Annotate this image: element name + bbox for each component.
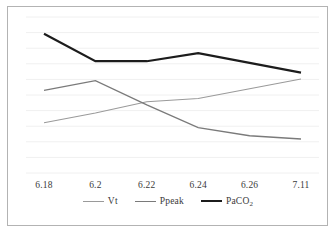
legend-line-swatch (83, 201, 104, 202)
legend-label: Ppeak (160, 196, 184, 206)
series-line-ppeak (44, 81, 301, 139)
legend-label: PaCO2 (226, 196, 253, 206)
x-tick-label: 6.26 (230, 180, 270, 190)
legend-label: Vt (108, 196, 118, 206)
series-line-paco2 (44, 34, 301, 73)
chart-plot-area (8, 7, 327, 225)
chart-frame: 6.186.26.226.246.267.11 (7, 6, 328, 226)
legend-label-subscript: 2 (249, 200, 253, 208)
x-tick-label: 6.18 (24, 180, 64, 190)
x-tick-label: 6.22 (127, 180, 167, 190)
legend-line-swatch (201, 200, 222, 202)
legend-item[interactable]: Vt (83, 196, 118, 206)
x-tick-label: 7.11 (281, 180, 321, 190)
chart-legend: VtPpeakPaCO2 (0, 196, 336, 206)
legend-item[interactable]: PaCO2 (201, 196, 253, 206)
legend-item[interactable]: Ppeak (135, 196, 184, 206)
legend-line-swatch (135, 201, 156, 202)
x-tick-label: 6.2 (75, 180, 115, 190)
x-tick-label: 6.24 (178, 180, 218, 190)
